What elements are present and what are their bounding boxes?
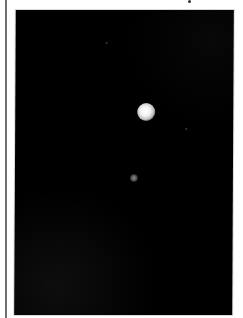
sky-speck [106, 42, 108, 44]
page-margin-line [5, 0, 7, 318]
photo-grain [14, 10, 234, 315]
scan-artifact [188, 0, 191, 3]
astronomical-photo [14, 10, 234, 315]
faint-celestial-object [130, 174, 138, 182]
bright-celestial-object [137, 103, 155, 121]
sky-speck [185, 128, 187, 130]
